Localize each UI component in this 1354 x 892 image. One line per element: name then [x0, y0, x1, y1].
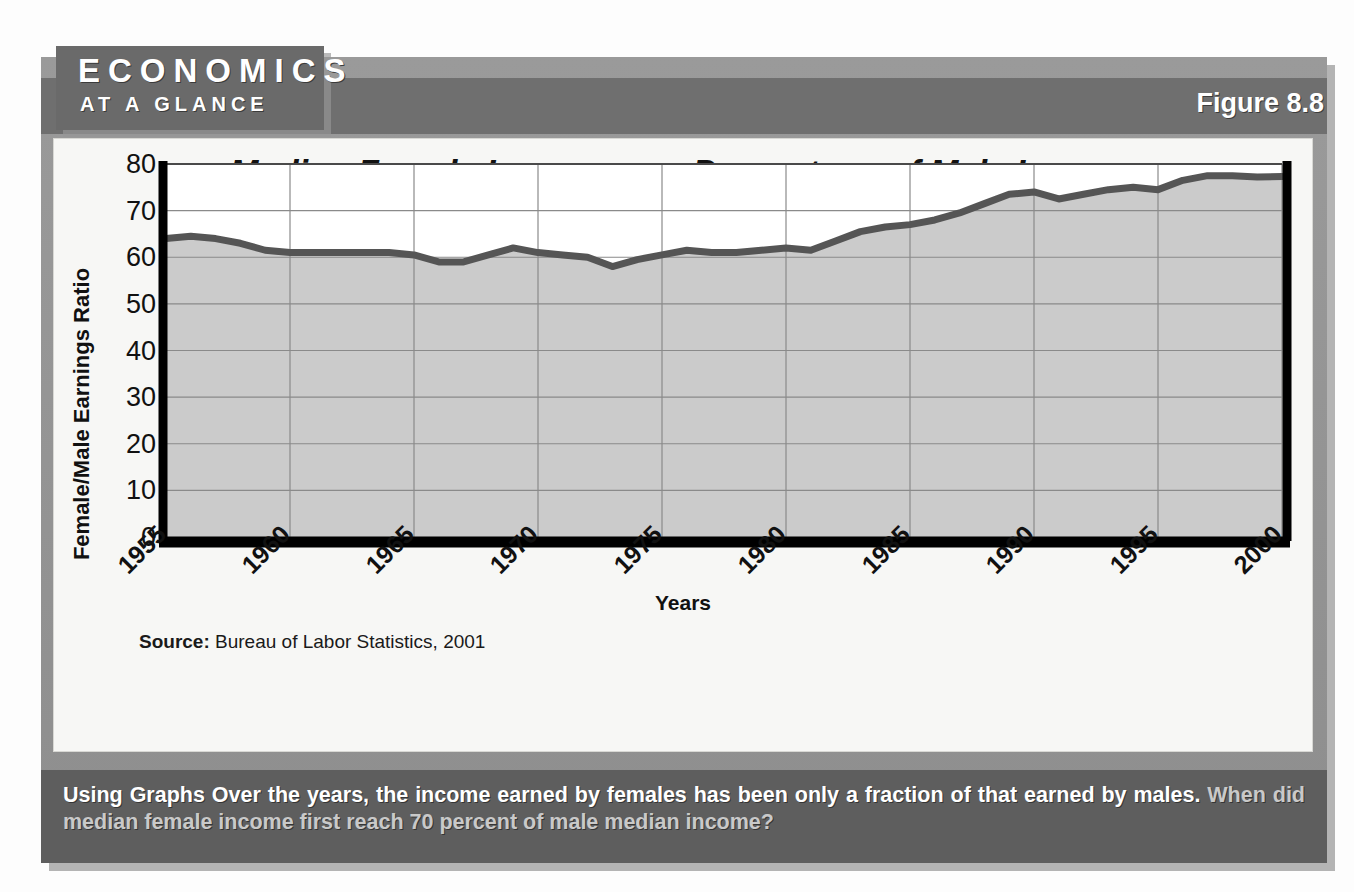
x-axis-ticks: 1955196019651970197519801985199019952000 — [54, 139, 1312, 751]
brand-title: ECONOMICS — [78, 52, 354, 90]
x-tick-label: 1975 — [608, 520, 668, 580]
x-tick-label: 1990 — [980, 520, 1040, 580]
x-tick-label: 1960 — [236, 520, 296, 580]
x-axis-title: Years — [54, 591, 1312, 615]
x-tick-label: 1955 — [112, 520, 172, 580]
figure-number: Figure 8.8 — [1196, 88, 1324, 119]
caption-bar: Using Graphs Over the years, the income … — [41, 770, 1327, 863]
brand-subtitle: AT A GLANCE — [80, 93, 269, 116]
x-tick-label: 1995 — [1104, 520, 1164, 580]
brand-tab: ECONOMICS AT A GLANCE — [56, 46, 324, 130]
figure-page: ECONOMICS AT A GLANCE Figure 8.8 Median … — [0, 0, 1354, 892]
plot-area-wrapper: Female/Male Earnings Ratio 8070605040302… — [54, 139, 1312, 751]
source-note: Source: Bureau of Labor Statistics, 2001 — [139, 631, 485, 653]
chart-panel: Median Female Income as a Percentage of … — [53, 138, 1313, 752]
x-tick-label: 1965 — [360, 520, 420, 580]
x-tick-label: 1970 — [484, 520, 544, 580]
source-text: Bureau of Labor Statistics, 2001 — [215, 631, 485, 652]
caption-lead: Using Graphs — [63, 783, 205, 807]
x-tick-label: 1985 — [856, 520, 916, 580]
x-tick-label: 2000 — [1228, 520, 1288, 580]
x-tick-label: 1980 — [732, 520, 792, 580]
source-label: Source: — [139, 631, 210, 652]
caption-body: Over the years, the income earned by fem… — [212, 783, 1201, 807]
